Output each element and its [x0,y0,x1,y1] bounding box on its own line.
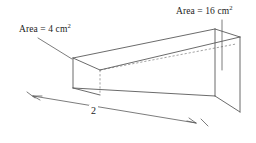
figure-canvas: Area = 4 cm2 Area = 16 cm2 2 [0,0,256,143]
small-area-label-text: Area = 4 cm [19,24,67,34]
length-dimension-line [33,96,196,123]
small-area-label-exponent: 2 [67,22,70,29]
length-label: 2 [89,105,98,116]
length-extension-left [27,92,35,98]
front-face [73,29,215,96]
small-area-leader-line [38,38,72,59]
large-area-label: Area = 16 cm2 [176,6,233,16]
length-arrowhead-right [187,118,196,123]
right-end-face [215,29,240,112]
small-area-label: Area = 4 cm2 [19,24,71,34]
large-area-label-text: Area = 16 cm [176,6,229,16]
large-area-label-exponent: 2 [229,4,232,11]
length-extension-right [201,119,208,126]
prism-drawing [0,0,256,143]
